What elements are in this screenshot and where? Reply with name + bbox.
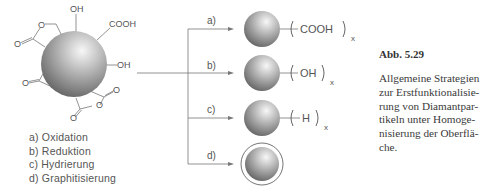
svg-text:O: O: [22, 78, 29, 88]
svg-text:COOH: COOH: [300, 23, 333, 35]
figure-caption: Abb. 5.29 Allgemeine Strategien zur Erst…: [379, 48, 491, 155]
svg-text:d): d): [207, 150, 216, 161]
product-d-graphitized: [241, 143, 283, 185]
diamond-particle-sphere: [41, 31, 107, 97]
branch-arrows: [137, 27, 234, 166]
product-a-cooh: COOH x: [244, 11, 355, 47]
caption-line: zur Erstfunktionalisie-: [379, 86, 491, 100]
svg-text:O: O: [113, 85, 120, 95]
caption-line: Allgemeine Strategien: [379, 72, 491, 86]
svg-text:c): c): [207, 104, 215, 115]
svg-text:O: O: [96, 100, 103, 110]
legend-item-oxidation: a) Oxidation: [29, 131, 116, 145]
caption-line: tikeln unter Homoge-: [379, 113, 491, 127]
svg-text:x: x: [330, 78, 334, 87]
svg-text:O: O: [70, 113, 77, 123]
svg-text:OH: OH: [70, 4, 84, 14]
svg-text:x: x: [324, 123, 328, 132]
svg-text:O: O: [14, 39, 21, 49]
svg-text:O: O: [38, 20, 45, 30]
legend-item-graphitisierung: d) Graphitisierung: [29, 172, 116, 186]
svg-text:OH: OH: [117, 60, 131, 70]
branch-labels: a) b) c) d): [207, 15, 216, 161]
product-b-oh: OH x: [244, 55, 334, 91]
legend-item-hydrierung: c) Hydrierung: [29, 158, 116, 172]
svg-text:b): b): [207, 60, 216, 71]
svg-text:x: x: [351, 34, 355, 43]
caption-text: Allgemeine Strategien zur Erstfunktional…: [379, 72, 491, 155]
caption-line: nisierung der Oberflä-: [379, 127, 491, 141]
svg-text:H: H: [302, 112, 310, 124]
figure-label: Abb. 5.29: [379, 48, 491, 60]
caption-line: che.: [379, 141, 491, 155]
svg-text:a): a): [207, 15, 216, 26]
reaction-legend: a) Oxidation b) Reduktion c) Hydrierung …: [29, 131, 116, 185]
svg-text:OH: OH: [300, 67, 317, 79]
product-c-h: H x: [244, 100, 328, 136]
svg-text:COOH: COOH: [109, 19, 136, 29]
caption-line: rung von Diamantpar-: [379, 100, 491, 114]
legend-item-reduktion: b) Reduktion: [29, 145, 116, 159]
